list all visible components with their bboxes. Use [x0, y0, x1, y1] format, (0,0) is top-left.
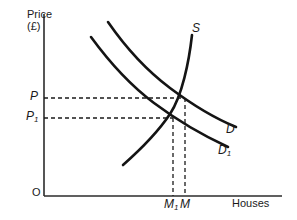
demand-curve-1 — [91, 37, 228, 147]
origin-label: O — [32, 186, 41, 198]
demand-curve-1-label-sub: 1 — [227, 149, 231, 158]
demand-curve-label: D — [226, 123, 235, 136]
y-axis-label-line1: Price — [27, 8, 52, 20]
x-axis-label: Houses — [232, 197, 269, 209]
supply-curve-label: S — [192, 22, 200, 35]
price-tick-p-text: P — [30, 89, 38, 103]
price-tick-p1-sub: 1 — [34, 115, 38, 124]
supply-demand-figure: Price (£) Houses O P P1 M1 M S D D1 — [0, 0, 297, 220]
price-tick-p: P — [30, 90, 38, 103]
quantity-tick-m: M — [180, 198, 190, 211]
quantity-tick-m-text: M — [180, 197, 190, 211]
axis-lines — [44, 14, 282, 196]
quantity-tick-m1-sub: 1 — [174, 203, 178, 212]
price-tick-p1: P1 — [26, 110, 38, 123]
demand-curve-label-text: D — [226, 122, 235, 136]
y-axis-label-line2: (£) — [27, 20, 52, 32]
demand-curve-1-label: D1 — [218, 144, 231, 157]
guide-lines-equilibrium — [44, 98, 185, 196]
demand-curve-1-label-text: D — [218, 143, 227, 157]
quantity-tick-m1: M1 — [164, 198, 178, 211]
y-axis-label: Price (£) — [27, 8, 52, 33]
price-tick-p1-text: P — [26, 109, 34, 123]
quantity-tick-m1-text: M — [164, 197, 174, 211]
supply-curve-label-text: S — [192, 21, 200, 35]
diagram-canvas — [0, 0, 297, 220]
